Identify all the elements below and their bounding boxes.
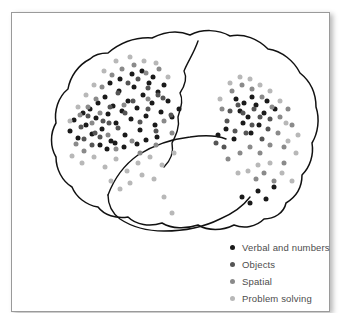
activation-dot bbox=[242, 101, 247, 106]
activation-dot bbox=[138, 128, 143, 133]
activation-dot bbox=[138, 151, 143, 156]
activation-dot bbox=[151, 75, 156, 80]
activation-dot bbox=[98, 143, 103, 148]
activation-dot bbox=[108, 81, 113, 86]
activation-dot bbox=[80, 161, 85, 166]
activation-dot bbox=[225, 119, 230, 124]
activation-dot bbox=[94, 116, 99, 121]
activation-dot bbox=[118, 187, 123, 192]
activation-dot bbox=[262, 111, 267, 116]
legend-label-problem-solving: Problem solving bbox=[242, 294, 312, 304]
activation-dot bbox=[226, 157, 231, 162]
activation-dot bbox=[103, 165, 108, 170]
activation-dot bbox=[294, 151, 299, 156]
activation-dot bbox=[159, 110, 164, 115]
activation-dot bbox=[126, 81, 131, 86]
activation-dot bbox=[156, 93, 161, 98]
activation-dot bbox=[113, 141, 118, 146]
activation-dot bbox=[152, 177, 157, 182]
activation-dot bbox=[244, 131, 249, 136]
activation-dot bbox=[102, 69, 107, 74]
activation-dot bbox=[236, 103, 241, 108]
brain-outline bbox=[52, 31, 319, 230]
activation-dot bbox=[220, 107, 225, 112]
activation-dot bbox=[84, 123, 89, 128]
activation-dot bbox=[147, 81, 152, 86]
activation-dot bbox=[146, 97, 151, 102]
activation-dot bbox=[123, 111, 128, 116]
activation-dot bbox=[254, 177, 259, 182]
activation-dot bbox=[114, 147, 119, 152]
activation-dot bbox=[228, 81, 233, 86]
activation-dot bbox=[240, 195, 245, 200]
activation-dot bbox=[90, 121, 95, 126]
activation-dot bbox=[98, 135, 103, 140]
activation-dot bbox=[122, 145, 127, 150]
activation-dot bbox=[101, 119, 106, 124]
activation-dot bbox=[132, 85, 137, 90]
activation-dot bbox=[290, 123, 295, 128]
legend-label-objects: Objects bbox=[242, 260, 275, 270]
activation-dot bbox=[142, 59, 147, 64]
activation-dot bbox=[136, 77, 141, 82]
activation-dot bbox=[286, 139, 291, 144]
activation-dot bbox=[161, 96, 166, 101]
activation-dot bbox=[144, 71, 149, 76]
activation-dot bbox=[236, 171, 241, 176]
activation-dot bbox=[250, 87, 255, 92]
activation-dot bbox=[222, 145, 227, 150]
activation-dot bbox=[118, 77, 123, 82]
activation-dot bbox=[240, 83, 245, 88]
activation-dot bbox=[154, 129, 159, 134]
activation-dot bbox=[128, 55, 133, 60]
activation-dot bbox=[155, 135, 160, 140]
activation-dot bbox=[107, 121, 112, 126]
legend-item-objects: Objects bbox=[224, 256, 344, 273]
activation-dot bbox=[125, 169, 130, 174]
activation-dot bbox=[93, 131, 98, 136]
activation-dot bbox=[153, 123, 158, 128]
activation-dot bbox=[170, 131, 175, 136]
activation-dot bbox=[272, 179, 277, 184]
activation-dot bbox=[214, 141, 219, 146]
activation-dot bbox=[128, 181, 133, 186]
legend: Verbal and numbers Objects Spatial Probl… bbox=[224, 239, 344, 307]
activation-dot bbox=[166, 75, 171, 80]
activation-dot bbox=[114, 59, 119, 64]
activation-dot bbox=[105, 147, 110, 152]
activation-dot bbox=[272, 185, 277, 190]
activation-dot bbox=[172, 151, 177, 156]
activation-dot bbox=[132, 63, 137, 68]
activation-dot bbox=[103, 95, 108, 100]
activation-dot bbox=[79, 125, 84, 130]
activation-dot bbox=[241, 111, 246, 116]
activation-dot bbox=[228, 109, 233, 114]
activation-dot bbox=[284, 121, 289, 126]
activation-dot bbox=[82, 149, 87, 154]
activation-dot bbox=[74, 142, 79, 147]
legend-item-spatial: Spatial bbox=[224, 273, 344, 290]
activation-dot bbox=[120, 67, 125, 72]
activation-dot bbox=[90, 143, 95, 148]
activation-dot bbox=[160, 163, 165, 168]
legend-dot-problem-solving-icon bbox=[230, 296, 235, 301]
activation-dot bbox=[248, 145, 253, 150]
figure-frame: Verbal and numbers Objects Spatial Probl… bbox=[11, 12, 330, 312]
activation-dot bbox=[130, 72, 135, 77]
activation-dot bbox=[268, 117, 273, 122]
activation-dot bbox=[250, 123, 255, 128]
activation-dot bbox=[266, 127, 271, 132]
activation-dot bbox=[136, 161, 141, 166]
activation-dot bbox=[114, 121, 119, 126]
activation-dot bbox=[256, 163, 261, 168]
activation-dot bbox=[218, 97, 223, 102]
activation-dot bbox=[268, 89, 273, 94]
activation-dot bbox=[109, 179, 114, 184]
activation-dot bbox=[126, 99, 131, 104]
activation-dot bbox=[162, 195, 167, 200]
activation-dot bbox=[154, 61, 159, 66]
activation-dot bbox=[135, 142, 140, 147]
activation-dot bbox=[122, 103, 127, 108]
activation-dot bbox=[286, 107, 291, 112]
activation-dot bbox=[276, 131, 281, 136]
